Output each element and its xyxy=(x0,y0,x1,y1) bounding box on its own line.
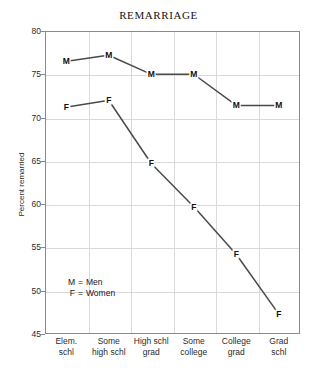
data-point-marker: M xyxy=(104,51,113,60)
y-axis-tick-label: 65 xyxy=(19,156,41,166)
page-title: REMARRIAGE xyxy=(0,9,317,21)
y-axis-tick-label: 80 xyxy=(19,26,41,36)
y-axis-tick-mark xyxy=(41,74,45,75)
x-axis-tick-label: Somehigh schl xyxy=(92,336,126,357)
y-axis-tick-labels: 4550556065707580 xyxy=(17,31,41,334)
y-axis-tick-label: 70 xyxy=(19,113,41,123)
data-point-marker: M xyxy=(62,57,71,66)
data-point-marker: F xyxy=(190,202,197,211)
x-axis-tick-line: Some xyxy=(180,336,207,347)
x-axis-tick-line: high schl xyxy=(92,347,126,358)
legend-item: M=Men xyxy=(66,277,115,288)
x-axis-tick-line: schl xyxy=(269,347,288,358)
x-axis-tick-line: grad xyxy=(222,347,251,358)
x-axis-tick-line: grad xyxy=(134,347,169,358)
x-axis-tick-line: college xyxy=(180,347,207,358)
y-axis-tick-mark xyxy=(41,118,45,119)
x-axis-tick-line: Grad xyxy=(269,336,288,347)
x-axis-tick-line: schl xyxy=(55,347,77,358)
y-axis-tick-mark xyxy=(41,247,45,248)
data-point-marker: M xyxy=(274,101,283,110)
x-axis-tick-label: Gradschl xyxy=(269,336,288,357)
legend-label: Women xyxy=(86,288,115,298)
chart-figure: REMARRIAGE Percent remarried 45505560657… xyxy=(0,0,317,372)
y-axis-tick-label: 50 xyxy=(19,286,41,296)
x-axis-tick-label: Collegegrad xyxy=(222,336,251,357)
y-axis-tick-mark xyxy=(41,204,45,205)
legend-equals-sign: = xyxy=(75,277,86,288)
x-axis-tick-label: Elem.schl xyxy=(55,336,77,357)
y-axis-tick-label: 45 xyxy=(19,329,41,339)
data-point-marker: F xyxy=(275,310,282,319)
x-axis-tick-line: Some xyxy=(92,336,126,347)
y-axis-tick-mark xyxy=(41,161,45,162)
legend-equals-sign: = xyxy=(75,288,86,299)
data-point-marker: M xyxy=(147,70,156,79)
chart-legend: M=MenF=Women xyxy=(66,277,115,299)
x-axis-tick-labels: Elem.schlSomehigh schlHigh schlgradSomec… xyxy=(45,336,300,368)
x-axis-tick-label: High schlgrad xyxy=(134,336,169,357)
data-point-marker: F xyxy=(233,250,240,259)
y-axis-tick-label: 55 xyxy=(19,242,41,252)
data-point-marker: M xyxy=(189,70,198,79)
legend-label: Men xyxy=(86,277,103,287)
y-axis-tick-mark xyxy=(41,291,45,292)
x-axis-tick-label: Somecollege xyxy=(180,336,207,357)
y-axis-tick-label: 75 xyxy=(19,69,41,79)
legend-key: F xyxy=(66,288,75,299)
y-axis-tick-mark xyxy=(41,31,45,32)
data-point-marker: F xyxy=(105,96,112,105)
x-axis-tick-line: High schl xyxy=(134,336,169,347)
data-point-marker: F xyxy=(63,103,70,112)
data-point-marker: M xyxy=(232,101,241,110)
y-axis-tick-label: 60 xyxy=(19,199,41,209)
legend-item: F=Women xyxy=(66,288,115,299)
y-axis-tick-mark xyxy=(41,334,45,335)
x-axis-tick-line: College xyxy=(222,336,251,347)
x-axis-tick-line: Elem. xyxy=(55,336,77,347)
legend-key: M xyxy=(66,277,75,288)
data-point-marker: F xyxy=(148,159,155,168)
